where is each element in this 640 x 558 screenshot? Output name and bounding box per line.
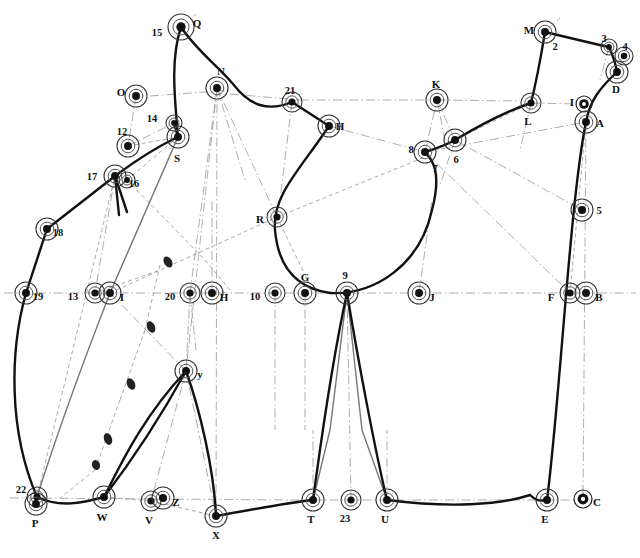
node-label-D: D [612, 83, 620, 95]
blob-marker [102, 432, 114, 446]
node-label-18: 18 [53, 227, 64, 238]
curve-primary [347, 293, 387, 500]
blob-marker [125, 377, 137, 391]
node-center-dot [111, 172, 119, 180]
node-marker-I[interactable] [99, 282, 121, 304]
node-label-L: L [524, 115, 531, 127]
blob-marker [162, 255, 175, 269]
node-center-dot [301, 289, 309, 297]
node-center-dot [176, 22, 185, 31]
node-marker-1[interactable] [576, 96, 592, 112]
construction-line-dashed [145, 265, 160, 330]
construction-line-dashdot [190, 88, 217, 293]
node-label-T: T [307, 513, 315, 525]
node-center-dot [43, 225, 51, 233]
node-marker-J[interactable] [408, 282, 430, 304]
curve-primary [14, 293, 37, 497]
node-center-dot [132, 92, 140, 100]
curve-primary [586, 72, 617, 122]
node-label-M: M [524, 24, 535, 36]
construction-line-dashdot [95, 176, 115, 293]
node-center-dot [606, 44, 612, 50]
dash-dot-construction-lines [4, 14, 636, 516]
node-label-I: I [120, 291, 124, 303]
node-label-H: H [220, 291, 229, 303]
node-label-X: X [212, 529, 220, 541]
node-label-9: 9 [342, 270, 347, 281]
node-marker-M[interactable] [534, 21, 556, 43]
construction-line-dashdot [186, 293, 190, 371]
node-center-dot [347, 496, 354, 503]
construction-line-dashed [205, 260, 230, 290]
node-center-dot [566, 289, 573, 296]
node-center-hole [582, 102, 586, 106]
node-center-dot [451, 136, 459, 144]
node-label-3: 3 [601, 33, 606, 44]
node-center-dot [578, 206, 586, 214]
node-label-P: P [32, 517, 39, 529]
construction-line-dashdot [280, 102, 292, 200]
node-label-C: C [593, 496, 601, 508]
node-marker-Q[interactable] [168, 14, 194, 40]
node-center-dot [543, 496, 551, 504]
node-marker-D[interactable] [606, 61, 628, 83]
node-label-20: 20 [165, 291, 176, 302]
blob-marker [91, 459, 102, 471]
node-center-dot [159, 494, 167, 502]
node-center-dot [182, 367, 190, 375]
curve-primary [104, 371, 186, 497]
node-center-dot [421, 148, 429, 156]
node-label-Z: Z [172, 496, 179, 508]
construction-line-dashed [127, 180, 205, 260]
node-marker-6[interactable] [444, 129, 466, 151]
node-center-hole [581, 497, 585, 501]
node-center-dot [22, 289, 30, 297]
node-label-13: 13 [68, 291, 79, 302]
construction-line-dashdot [425, 100, 437, 152]
node-label-A: A [596, 117, 604, 129]
construction-line-dashdot [110, 293, 186, 371]
node-center-dot [273, 213, 280, 220]
node-center-dot [213, 84, 221, 92]
construction-line-dashdot [216, 88, 217, 516]
node-label-O: O [117, 86, 126, 98]
node-label-N: N [217, 65, 225, 77]
construction-line-dashdot [186, 88, 217, 371]
curve-primary [47, 176, 115, 229]
construction-line-dashdot [425, 152, 570, 293]
node-label-2: 2 [552, 41, 557, 52]
node-center-dot [309, 496, 317, 504]
construction-line-dashdot [437, 100, 520, 101]
node-label-23: 23 [340, 513, 351, 524]
node-label-U: U [381, 513, 389, 525]
node-label-E: E [541, 513, 548, 525]
node-center-dot [433, 96, 441, 104]
node-marker-12[interactable] [117, 135, 139, 157]
node-label-1: I [570, 96, 574, 108]
node-label-B: B [595, 291, 603, 303]
node-center-dot [288, 98, 295, 105]
node-label-15: 15 [152, 27, 163, 38]
construction-line-dashed [110, 217, 277, 293]
node-label-12: 12 [117, 126, 128, 137]
node-marker-W[interactable] [93, 486, 115, 508]
node-label-6: 6 [453, 154, 458, 165]
node-label-G: G [301, 271, 310, 283]
node-marker-8[interactable] [414, 141, 436, 163]
node-center-dot [621, 53, 627, 59]
node-label-7: 7 [432, 163, 437, 174]
node-center-dot [100, 493, 108, 501]
node-marker-14[interactable] [166, 115, 182, 131]
node-label-10: 10 [250, 291, 261, 302]
construction-line-dashed [37, 176, 115, 497]
node-center-dot [106, 289, 114, 297]
node-marker-Z[interactable] [152, 487, 174, 509]
construction-line-dashdot [128, 96, 136, 146]
node-center-dot [325, 122, 333, 130]
node-label-W: W [97, 511, 108, 523]
node-marker-O[interactable] [125, 85, 147, 107]
node-center-dot [527, 99, 534, 106]
node-label-R: R [256, 213, 265, 225]
node-label-V: V [145, 514, 153, 526]
node-center-dot [171, 120, 177, 126]
